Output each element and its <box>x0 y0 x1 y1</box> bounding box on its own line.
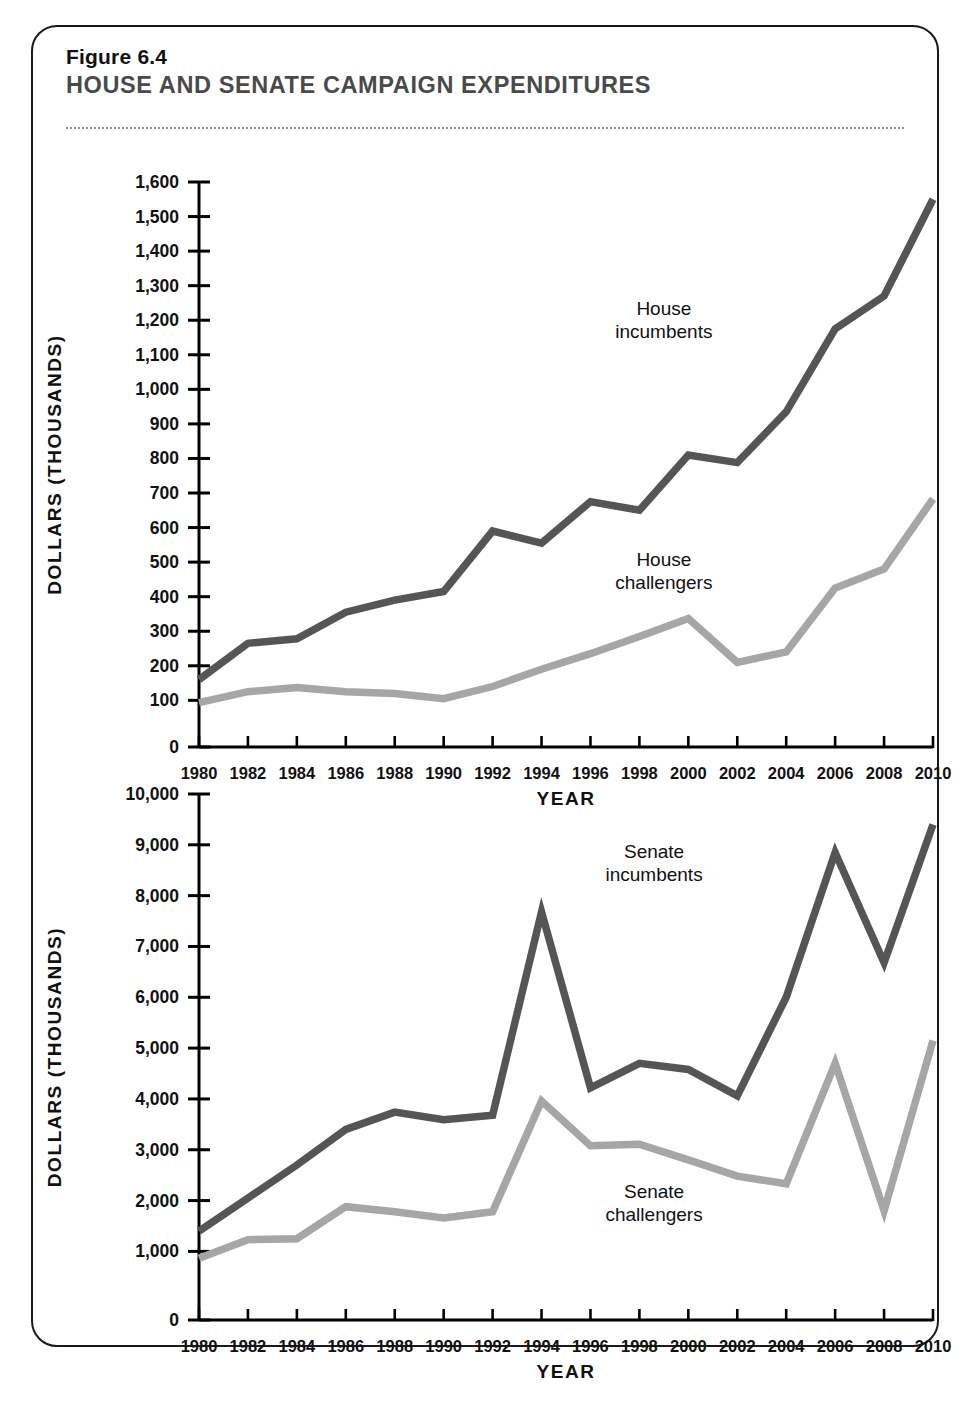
house-chart-svg: 01002003004005006007008009001,0001,1001,… <box>33 145 941 705</box>
y-tick-label: 1,000 <box>135 1241 179 1261</box>
y-tick-label: 900 <box>150 414 179 434</box>
x-tick-label: 2004 <box>768 1337 806 1355</box>
y-tick-label: 10,000 <box>125 784 179 804</box>
y-tick-label: 7,000 <box>135 936 179 956</box>
x-tick-label: 1986 <box>327 1337 364 1355</box>
x-axis-title: YEAR <box>536 1361 595 1382</box>
series-label-line-1: Senate <box>624 841 684 862</box>
x-tick-label: 1980 <box>181 1337 218 1355</box>
x-tick-label: 2010 <box>915 1337 952 1355</box>
series-line-house-challengers <box>199 499 933 703</box>
x-tick-label: 1984 <box>279 1337 317 1355</box>
y-tick-label: 1,600 <box>135 172 179 192</box>
x-tick-label: 1998 <box>621 1337 658 1355</box>
series-label-line-2: incumbents <box>615 321 712 342</box>
y-tick-label: 1,200 <box>135 310 179 330</box>
y-tick-label: 5,000 <box>135 1038 179 1058</box>
y-tick-label: 4,000 <box>135 1089 179 1109</box>
x-tick-label: 1994 <box>523 1337 561 1355</box>
y-tick-label: 3,000 <box>135 1140 179 1160</box>
series-line-senate-challengers <box>199 1040 933 1258</box>
x-tick-label: 2008 <box>866 1337 903 1355</box>
y-tick-label: 2,000 <box>135 1191 179 1211</box>
y-tick-label: 400 <box>150 587 179 607</box>
y-tick-label: 600 <box>150 518 179 538</box>
series-label-line-1: House <box>636 549 691 570</box>
y-tick-label: 1,300 <box>135 276 179 296</box>
series-label-senate-incumbents: Senateincumbents <box>605 841 702 885</box>
series-label-line-2: incumbents <box>605 864 702 885</box>
y-tick-label: 500 <box>150 552 179 572</box>
x-tick-label: 2000 <box>670 1337 707 1355</box>
series-label-house-incumbents: Houseincumbents <box>615 298 712 342</box>
figure-card: Figure 6.4 HOUSE AND SENATE CAMPAIGN EXP… <box>31 25 939 1347</box>
y-tick-label: 0 <box>169 1310 179 1330</box>
x-tick-label: 2006 <box>817 1337 854 1355</box>
x-tick-label: 1988 <box>376 1337 413 1355</box>
title-divider <box>66 127 904 129</box>
y-tick-label: 1,400 <box>135 241 179 261</box>
y-tick-label: 1,000 <box>135 379 179 399</box>
series-line-senate-incumbents <box>199 824 933 1231</box>
x-tick-label: 1992 <box>474 1337 511 1355</box>
house-expenditures-chart: 01002003004005006007008009001,0001,1001,… <box>33 145 941 700</box>
series-label-senate-challengers: Senatechallengers <box>605 1181 702 1225</box>
y-tick-label: 300 <box>150 621 179 641</box>
y-tick-label: 1,100 <box>135 345 179 365</box>
y-axis-title: DOLLARS (THOUSANDS) <box>44 334 65 595</box>
series-label-line-2: challengers <box>615 572 712 593</box>
series-label-line-2: challengers <box>605 1204 702 1225</box>
y-tick-label: 800 <box>150 448 179 468</box>
y-tick-label: 9,000 <box>135 835 179 855</box>
y-tick-label: 200 <box>150 656 179 676</box>
senate-chart-svg: 01,0002,0003,0004,0005,0006,0007,0008,00… <box>33 732 941 1292</box>
y-tick-label: 100 <box>150 690 179 710</box>
figure-title: HOUSE AND SENATE CAMPAIGN EXPENDITURES <box>66 72 651 99</box>
y-axis-title: DOLLARS (THOUSANDS) <box>44 927 65 1188</box>
series-label-line-1: House <box>636 298 691 319</box>
figure-number: Figure 6.4 <box>66 45 167 69</box>
x-tick-label: 1982 <box>230 1337 267 1355</box>
y-tick-label: 1,500 <box>135 207 179 227</box>
y-tick-label: 8,000 <box>135 886 179 906</box>
series-label-line-1: Senate <box>624 1181 684 1202</box>
y-tick-label: 700 <box>150 483 179 503</box>
y-tick-label: 6,000 <box>135 987 179 1007</box>
series-label-house-challengers: Housechallengers <box>615 549 712 593</box>
x-tick-label: 1990 <box>425 1337 462 1355</box>
x-tick-label: 2002 <box>719 1337 756 1355</box>
x-tick-label: 1996 <box>572 1337 609 1355</box>
senate-expenditures-chart: 01,0002,0003,0004,0005,0006,0007,0008,00… <box>33 732 941 1292</box>
